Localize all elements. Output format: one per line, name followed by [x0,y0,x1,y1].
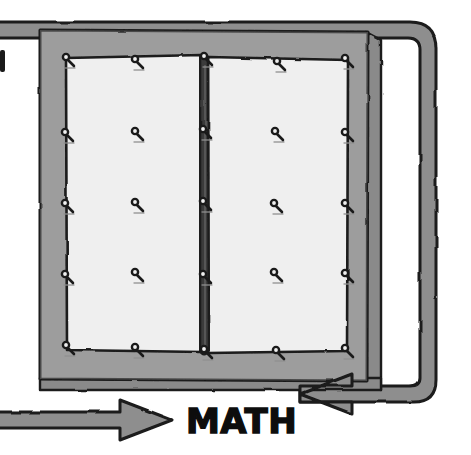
pushpin-head [63,342,69,348]
pushpin-head [132,128,138,134]
pushpin-head [62,271,68,277]
pushpin-head [271,200,277,206]
pushpin-head [342,55,348,61]
pushpin-head [132,344,138,350]
pushpin-head [342,200,348,206]
pushpin-head [201,346,207,352]
pushpin-head [201,53,207,59]
math-bulletin-board-illustration [0,0,471,455]
right-page [208,57,348,353]
pushpin-head [200,198,206,204]
right-page-surface [208,57,348,353]
illustration-canvas: MATH [0,0,471,455]
pushpin-head [200,271,206,277]
pushpin-head [63,54,69,60]
pushpin-head [62,200,68,206]
pushpin-head [132,199,138,205]
left-edge-fragment [0,50,5,72]
pushpin-head [132,269,138,275]
pushpin-head [272,128,278,134]
pushpin-head [342,129,348,135]
pushpin-head [132,56,138,62]
pushpin-head [200,126,206,132]
pushpin-head [274,58,280,64]
pushpin-head [273,347,279,353]
pushpin-head [271,269,277,275]
pushpin-head [342,345,348,351]
pushpin-head [342,270,348,276]
pushpin-head [62,129,68,135]
